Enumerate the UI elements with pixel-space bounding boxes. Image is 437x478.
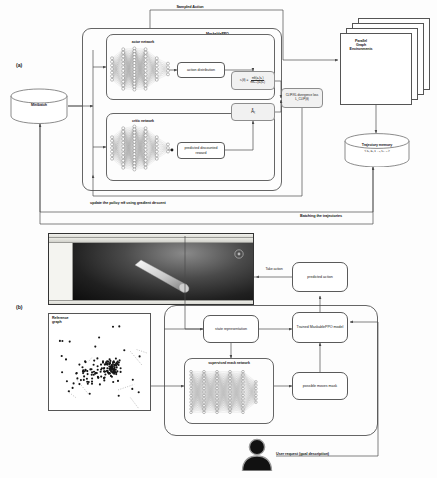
figure-root: (a) Sampled Action MaskablePPO actor net… [0,0,437,478]
parallel-env-label: Parallel Graph Environments [344,40,378,51]
